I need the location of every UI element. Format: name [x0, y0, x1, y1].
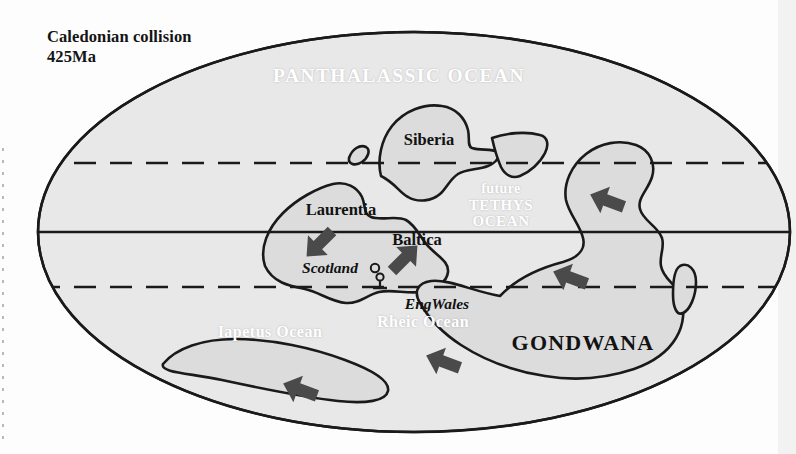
ocean-label-future-tethys-line1: future: [481, 181, 520, 197]
ocean-label-iapetus: Iapetus Ocean: [218, 323, 323, 341]
land-label-scotland: Scotland: [302, 259, 358, 277]
ocean-label-rheic: Rheic Ocean: [377, 313, 469, 331]
land-label-laurentia: Laurentia: [306, 200, 376, 220]
ocean-label-future-tethys-line2: TETHYS: [469, 197, 533, 214]
land-label-engwales: EngWales: [405, 295, 469, 313]
ocean-label-future-tethys-line3: OCEAN: [472, 213, 529, 230]
ocean-label-panthalassic: PANTHALASSIC OCEAN: [273, 65, 525, 87]
paleogeographic-map-figure: Caledonian collision 425Ma PANTHALASSIC …: [0, 0, 796, 454]
map-title: Caledonian collision 425Ma: [47, 27, 192, 67]
land-label-gondwana: GONDWANA: [512, 330, 655, 356]
land-label-siberia: Siberia: [404, 130, 454, 150]
land-label-baltica: Baltica: [392, 230, 442, 250]
